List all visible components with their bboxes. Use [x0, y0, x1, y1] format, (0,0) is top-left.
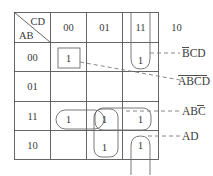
row-header-2: 11	[27, 111, 37, 122]
annotation-abcd-label: ABCD	[178, 75, 210, 87]
cell-r00-c11: 1	[138, 54, 144, 66]
annotation-abcd: ABCD	[178, 75, 210, 87]
corner-col-variable-label: CD	[30, 16, 45, 27]
cell-r10-c11: 1	[138, 139, 144, 151]
corner-row-variable-label: AB	[19, 30, 34, 41]
kmap-canvas: CD AB 00 01 11 10 00 01 11 10	[0, 0, 213, 176]
annotation-abc-label: ABC	[182, 105, 206, 117]
cell-r00-c00: 1	[66, 52, 72, 64]
column-header-3: 10	[171, 22, 182, 33]
row-header-3: 10	[27, 140, 38, 151]
column-header-2: 11	[135, 22, 145, 33]
annotation-ad-label: AD	[182, 130, 199, 142]
kmap-cell-values: 1 1 1 1 1 1 1	[66, 52, 144, 153]
annotation-bcd: BCD	[182, 47, 206, 59]
column-header-0: 00	[63, 22, 74, 33]
cell-r11-c00: 1	[66, 113, 72, 125]
karnaugh-map-figure: CD AB 00 01 11 10 00 01 11 10	[0, 0, 213, 176]
annotation-bcd-label: BCD	[182, 47, 206, 59]
annotation-abc: ABC	[182, 105, 206, 117]
column-header-1: 01	[99, 22, 110, 33]
cell-r11-c01: 1	[102, 113, 108, 125]
cell-r10-c01: 1	[102, 141, 108, 153]
cell-r11-c11: 1	[138, 113, 144, 125]
annotation-ad: AD	[182, 130, 199, 142]
group-pair-row11	[56, 110, 104, 129]
leader-line-abcd	[80, 62, 180, 80]
row-header-1: 01	[27, 81, 38, 92]
row-header-0: 00	[27, 52, 38, 63]
